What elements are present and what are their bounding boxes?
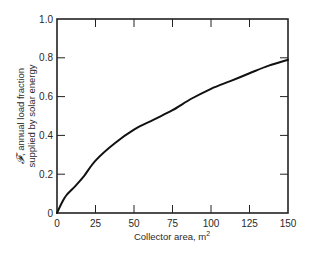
y-tick-labels: 00.20.40.60.81.0: [39, 14, 53, 219]
x-tick-label: 150: [280, 218, 297, 229]
y-axis-label: 𝓕, annual load fraction supplied by sola…: [14, 64, 37, 167]
x-tick-label: 25: [90, 218, 102, 229]
x-tick-label: 125: [241, 218, 258, 229]
y-axis-label-line2: supplied by solar energy: [26, 64, 37, 167]
y-tick-label: 0.4: [39, 130, 53, 141]
x-tick-label: 100: [203, 218, 220, 229]
plot-frame: [57, 19, 288, 213]
x-tick-label: 75: [167, 218, 179, 229]
x-tick-labels: 0255075100125150: [54, 218, 297, 229]
y-axis-label-line1: 𝓕, annual load fraction: [14, 68, 26, 164]
y-tick-label: 0.6: [39, 91, 53, 102]
y-tick-label: 1.0: [39, 14, 53, 25]
x-tick-label: 0: [54, 218, 60, 229]
y-tick-label: 0.2: [39, 169, 53, 180]
x-tick-label: 50: [128, 218, 140, 229]
data-curve: [57, 60, 288, 213]
chart: 0255075100125150 00.20.40.60.81.0 Collec…: [0, 0, 309, 253]
y-tick-label: 0.8: [39, 52, 53, 63]
axis-ticks: [57, 19, 288, 213]
x-axis-label: Collector area, m2: [134, 230, 210, 242]
y-tick-label: 0: [47, 208, 53, 219]
